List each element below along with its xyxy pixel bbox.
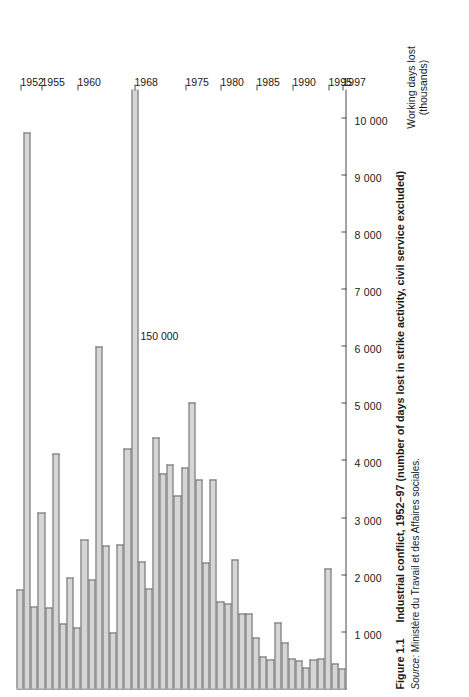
bar-1961 bbox=[80, 539, 87, 688]
year-tick-label-1952: 1952 bbox=[20, 75, 43, 87]
value-tick-label: 7 000 bbox=[354, 285, 381, 297]
bar-1955 bbox=[37, 512, 44, 688]
year-tick-label-1960: 1960 bbox=[77, 75, 100, 87]
chart-plot-area: 1 0002 0003 0004 0005 0006 0007 0008 000… bbox=[16, 89, 346, 689]
bar-1970 bbox=[145, 588, 152, 688]
bar-1959 bbox=[66, 577, 73, 688]
value-tick-label: 4 000 bbox=[354, 456, 381, 468]
bar-1982 bbox=[231, 559, 238, 688]
bar-1990 bbox=[288, 658, 295, 688]
bar-1968 bbox=[131, 89, 138, 688]
year-tick-label-1997: 1997 bbox=[342, 75, 365, 87]
bar-row bbox=[231, 89, 238, 688]
bar-1987 bbox=[266, 659, 273, 688]
bar-1969 bbox=[138, 561, 145, 688]
bar-1984 bbox=[245, 613, 252, 688]
value-tick bbox=[341, 117, 346, 118]
bar-row bbox=[66, 89, 73, 688]
bar-1977 bbox=[195, 479, 202, 688]
bar-row bbox=[188, 89, 195, 688]
bar-row bbox=[80, 89, 87, 688]
bar-row bbox=[195, 89, 202, 688]
bar-1953 bbox=[23, 132, 30, 688]
value-tick bbox=[341, 517, 346, 518]
bar-1979 bbox=[209, 479, 216, 688]
bar-row bbox=[245, 89, 252, 688]
bar-1980 bbox=[216, 601, 223, 688]
bar-1971 bbox=[152, 437, 159, 688]
bar-row bbox=[288, 89, 295, 688]
year-tick-label-1985: 1985 bbox=[256, 75, 279, 87]
bar-row bbox=[45, 89, 52, 688]
bar-1957 bbox=[52, 453, 59, 688]
bar-1962 bbox=[88, 579, 95, 688]
bar-row bbox=[166, 89, 173, 688]
value-tick bbox=[341, 174, 346, 175]
bar-1964 bbox=[102, 545, 109, 688]
bar-row bbox=[274, 89, 281, 688]
bar-row bbox=[302, 89, 309, 688]
year-tick-label-1975: 1975 bbox=[185, 75, 208, 87]
bar-row bbox=[159, 89, 166, 688]
offscale-bar-annotation: 150 000 bbox=[140, 329, 178, 341]
bar-row bbox=[338, 89, 345, 688]
bar-1952 bbox=[16, 589, 23, 688]
value-tick bbox=[341, 631, 346, 632]
year-tick-label-1968: 1968 bbox=[134, 75, 157, 87]
bar-series bbox=[16, 89, 345, 688]
bar-row bbox=[52, 89, 59, 688]
figure-caption: Figure 1.1 Industrial conflict, 1952–97 … bbox=[392, 69, 422, 689]
bar-row bbox=[216, 89, 223, 688]
bar-row bbox=[123, 89, 130, 688]
value-tick-label: 8 000 bbox=[354, 228, 381, 240]
bar-row bbox=[259, 89, 266, 688]
bar-1960 bbox=[73, 627, 80, 688]
rotated-page-wrapper: 1 0002 0003 0004 0005 0006 0007 0008 000… bbox=[0, 0, 469, 697]
bar-1983 bbox=[238, 613, 245, 688]
value-tick-label: 1 000 bbox=[354, 628, 381, 640]
bar-1963 bbox=[95, 346, 102, 688]
bar-row bbox=[145, 89, 152, 688]
bar-row bbox=[238, 89, 245, 688]
figure-title: Industrial conflict, 1952–97 (number of … bbox=[393, 170, 405, 622]
value-tick bbox=[341, 231, 346, 232]
bar-1966 bbox=[116, 544, 123, 688]
value-tick bbox=[341, 288, 346, 289]
figure-container: 1 0002 0003 0004 0005 0006 0007 0008 000… bbox=[0, 0, 469, 697]
bar-row bbox=[209, 89, 216, 688]
value-tick-label: 3 000 bbox=[354, 514, 381, 526]
bar-row bbox=[266, 89, 273, 688]
bar-1993 bbox=[309, 659, 316, 688]
year-tick-label-1955: 1955 bbox=[41, 75, 64, 87]
bar-row bbox=[295, 89, 302, 688]
bar-row bbox=[324, 89, 331, 688]
bar-1958 bbox=[59, 623, 66, 688]
bar-1976 bbox=[188, 402, 195, 688]
bar-row bbox=[109, 89, 116, 688]
bar-row bbox=[59, 89, 66, 688]
bar-row bbox=[37, 89, 44, 688]
bar-row bbox=[30, 89, 37, 688]
value-tick-label: 9 000 bbox=[354, 171, 381, 183]
bar-row bbox=[202, 89, 209, 688]
bar-1985 bbox=[252, 637, 259, 688]
bar-row bbox=[317, 89, 324, 688]
bar-row bbox=[131, 89, 138, 688]
bar-row bbox=[224, 89, 231, 688]
value-tick-label: 6 000 bbox=[354, 342, 381, 354]
year-tick-label-1980: 1980 bbox=[220, 75, 243, 87]
bar-row bbox=[116, 89, 123, 688]
bar-1986 bbox=[259, 656, 266, 688]
value-tick-label: 10 000 bbox=[354, 114, 387, 126]
bar-1965 bbox=[109, 632, 116, 688]
bar-row bbox=[102, 89, 109, 688]
bar-1989 bbox=[281, 642, 288, 688]
bar-1972 bbox=[159, 473, 166, 688]
figure-number: Figure 1.1 bbox=[393, 638, 405, 689]
year-tick-label-1990: 1990 bbox=[292, 75, 315, 87]
bar-row bbox=[331, 89, 338, 688]
bar-row bbox=[73, 89, 80, 688]
bar-1997 bbox=[338, 668, 345, 688]
bar-1974 bbox=[173, 495, 180, 688]
value-tick-label: 2 000 bbox=[354, 571, 381, 583]
